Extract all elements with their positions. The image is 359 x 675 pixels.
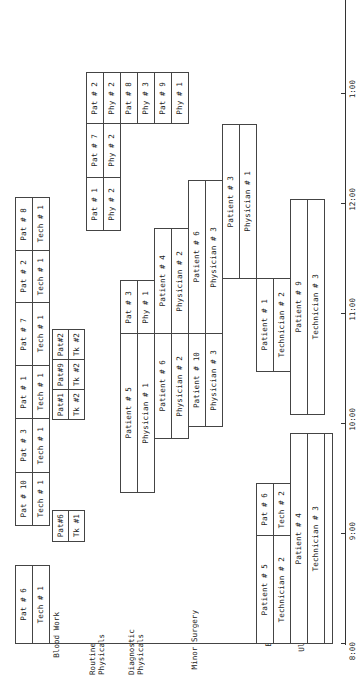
row-label-blood-work: Blood Work	[52, 612, 72, 658]
patient-label: Patient # 4	[159, 255, 167, 306]
technician-label: Tech # 1	[37, 205, 45, 242]
row-label-routine-physicals: Routine Physicals	[88, 603, 108, 675]
diagnostic-physician-cell: Physician # 2	[171, 333, 189, 439]
xray-tech-cell: Tech # 1	[32, 302, 50, 366]
physician-label: Physician # 2	[176, 251, 184, 312]
ultrasound-spacer-cell	[324, 433, 333, 644]
technician-label: Tech # 1	[37, 258, 45, 295]
routine-physician-cell: Phy # 2	[103, 72, 121, 124]
routine-patient-cell: Pat # 9	[154, 72, 172, 124]
tick-label-8: 8:00	[348, 642, 357, 660]
blood-patient-cell: Pat#6	[52, 510, 69, 542]
ekg-patient-cell: Pat # 6	[256, 483, 274, 536]
minor-patient-cell: Patient # 10	[188, 333, 206, 427]
ekg-patient-cell: Patient # 1	[256, 278, 274, 372]
patient-label: Pat # 7	[91, 134, 99, 167]
patient-label: Pat # 1	[91, 188, 99, 221]
technician-label: Tk #2	[73, 333, 81, 356]
patient-label: Pat # 8	[20, 208, 28, 241]
time-axis	[345, 0, 346, 645]
xray-tech-cell: Tech # 1	[32, 472, 50, 526]
patient-label: Pat # 6	[20, 588, 28, 621]
tick-label-12: 12:00	[348, 188, 357, 211]
physician-label: Phy # 2	[108, 82, 116, 115]
xray-tech-cell: Tech # 1	[32, 565, 50, 644]
technician-label: Technician # 2	[278, 292, 286, 357]
patient-label: Pat # 9	[159, 82, 167, 115]
patient-label: Patient # 3	[227, 176, 235, 227]
tick-label-10: 10:00	[348, 408, 357, 431]
tick-10	[341, 423, 346, 424]
diagnostic-patient-cell: Patient # 5	[120, 333, 138, 493]
technician-label: Tech # 1	[37, 373, 45, 410]
physician-label: Physician # 3	[210, 350, 218, 411]
xray-tech-cell: Tech # 1	[32, 365, 50, 419]
tick-label-11: 11:00	[348, 298, 357, 321]
diagnostic-physician-cell: Physician # 2	[171, 228, 189, 334]
routine-patient-cell: Pat # 8	[120, 72, 138, 124]
minor-physician-cell: Physician # 3	[205, 180, 223, 334]
ultrasound-patient-cell: Patient # 9	[290, 199, 308, 415]
diagnostic-physician-cell: Physician # 1	[137, 333, 155, 493]
minor-patient-cell: Patient # 6	[188, 180, 206, 334]
physician-label: Physician # 1	[142, 383, 150, 444]
patient-label: Pat # 10	[20, 480, 28, 517]
patient-label: Pat # 2	[91, 82, 99, 115]
ekg-patient-cell: Patient # 5	[256, 535, 274, 644]
routine-physician-cell: Phy # 2	[103, 177, 121, 231]
routine-patient-cell: Pat # 7	[86, 123, 104, 178]
tick-1	[341, 93, 346, 94]
technician-label: Technician # 3	[312, 274, 320, 339]
patient-label: Pat#9	[57, 363, 65, 386]
patient-label: Pat # 3	[125, 291, 133, 324]
schedule-gantt-chart: X-Ray Blood Work Routine Physicals Diagn…	[0, 0, 359, 675]
xray-patient-cell: Pat # 1	[15, 365, 33, 419]
xray-tech-cell: Tech # 1	[32, 418, 50, 473]
patient-label: Patient # 5	[125, 387, 133, 438]
ekg-tech-cell: Tech # 2	[273, 483, 291, 536]
patient-label: Patient # 10	[193, 352, 201, 408]
blood-tech-cell: Tk #2	[68, 329, 85, 360]
tick-label-9: 9:00	[348, 522, 357, 540]
patient-label: Pat # 7	[20, 318, 28, 351]
physician-label: Phy # 2	[108, 188, 116, 221]
tick-8	[341, 643, 346, 644]
xray-patient-cell: Pat # 10	[15, 472, 33, 526]
minor-physician-cell: Physician # 1	[239, 124, 257, 279]
patient-label: Pat#6	[57, 514, 65, 537]
diagnostic-patient-cell: Pat # 3	[120, 280, 138, 334]
routine-patient-cell: Pat # 2	[86, 72, 104, 124]
ultrasound-tech-cell: Technician # 3	[307, 199, 325, 415]
ultrasound-tech-cell: Technician # 3	[307, 433, 325, 644]
tick-11	[341, 313, 346, 314]
patient-label: Pat # 6	[261, 493, 269, 526]
technician-label: Tech # 1	[37, 586, 45, 623]
routine-physician-cell: Phy # 3	[137, 72, 155, 124]
technician-label: Tech # 1	[37, 427, 45, 464]
patient-label: Patient # 4	[295, 513, 303, 564]
tick-12	[341, 203, 346, 204]
physician-label: Phy # 1	[142, 291, 150, 324]
technician-label: Tk #2	[73, 393, 81, 416]
technician-label: Tech # 1	[37, 480, 45, 517]
minor-patient-cell: Patient # 3	[222, 124, 240, 279]
diagnostic-patient-cell: Patient # 4	[154, 228, 172, 334]
diagnostic-patient-cell: Patient # 6	[154, 333, 172, 439]
physician-label: Physician # 1	[244, 171, 252, 232]
patient-label: Patient # 6	[193, 231, 201, 282]
physician-label: Physician # 3	[210, 227, 218, 288]
technician-label: Technician # 3	[312, 506, 320, 571]
blood-tech-cell: Tk #2	[68, 359, 85, 390]
patient-label: Pat#2	[57, 333, 65, 356]
xray-patient-cell: Pat # 3	[15, 418, 33, 473]
technician-label: Tk #2	[73, 363, 81, 386]
patient-label: Patient # 6	[159, 360, 167, 411]
xray-patient-cell: Pat # 6	[15, 565, 33, 644]
blood-tech-cell: Tk #1	[68, 510, 85, 542]
routine-patient-cell: Pat # 1	[86, 177, 104, 231]
tick-label-1: 1:00	[348, 80, 357, 98]
xray-tech-cell: Tech # 1	[32, 197, 50, 251]
patient-label: Pat # 2	[20, 260, 28, 293]
xray-patient-cell: Pat # 7	[15, 302, 33, 366]
routine-physician-cell: Phy # 2	[103, 123, 121, 178]
